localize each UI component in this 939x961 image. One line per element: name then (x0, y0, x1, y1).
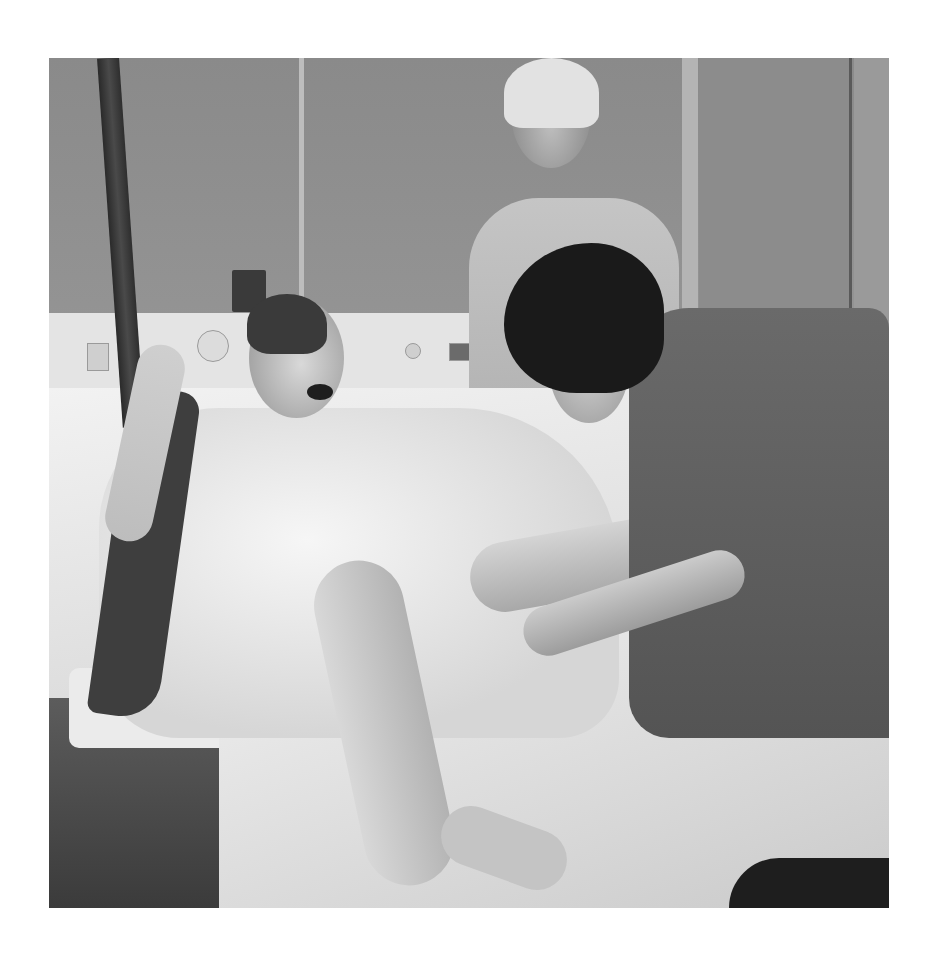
iv-pole (299, 58, 304, 298)
patient-hair (247, 294, 327, 354)
door-frame (682, 58, 698, 338)
door (699, 58, 852, 348)
floor-shadow (729, 858, 889, 908)
patient-mouth (307, 384, 333, 400)
wall-dial (197, 330, 229, 362)
standing-attendant-hair (504, 58, 599, 128)
photo (49, 58, 889, 908)
wall-switch (87, 343, 109, 371)
wall-socket (405, 343, 421, 359)
nurse-body (629, 308, 889, 738)
